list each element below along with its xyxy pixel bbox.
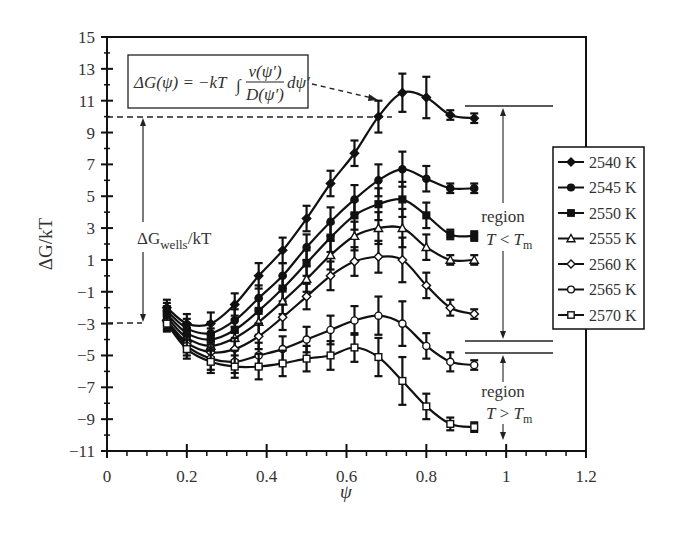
y-tick-label: −9	[77, 410, 95, 429]
y-tick-label: −11	[69, 442, 95, 461]
legend-label: 2560 K	[589, 256, 637, 273]
y-tick-label: 11	[79, 92, 95, 111]
svg-text:T < Tm: T < Tm	[486, 230, 533, 252]
y-tick-label: 13	[78, 60, 95, 79]
formula-arrow	[312, 84, 372, 98]
y-tick-label: 15	[78, 28, 95, 47]
series-2560k	[163, 238, 479, 364]
formula-box: ΔG(ψ) = −kT ∫ ν(ψ′) D(ψ′) dψ′	[128, 55, 310, 108]
x-tick-label: 0.2	[176, 467, 197, 486]
x-tick-label: 0	[103, 467, 112, 486]
x-tick-label: 1	[502, 467, 511, 486]
y-tick-label: −7	[77, 378, 96, 397]
region-low-annotation: region T < Tm region T > Tm	[465, 106, 553, 440]
y-tick-label: −3	[77, 315, 95, 334]
legend-label: 2570 K	[589, 307, 637, 324]
y-tick-label: −1	[77, 283, 95, 302]
formula-numerator: ν(ψ′)	[248, 62, 281, 81]
x-tick-label: 0.4	[256, 467, 278, 486]
svg-text:T > Tm: T > Tm	[486, 404, 533, 426]
y-tick-label: 9	[87, 124, 96, 143]
x-tick-label: 1.2	[575, 467, 596, 486]
series-layer	[163, 74, 479, 432]
y-tick-label: 1	[87, 251, 96, 270]
legend-label: 2550 K	[589, 205, 637, 222]
legend-label: 2555 K	[589, 230, 637, 247]
y-tick-label: 5	[87, 187, 96, 206]
legend-label: 2545 K	[589, 179, 637, 196]
series-2540k	[163, 74, 479, 335]
y-axis-title: ΔG/kT	[35, 217, 56, 270]
svg-text:region: region	[481, 207, 525, 226]
y-tick-label: −5	[77, 346, 95, 365]
x-tick-label: 0.8	[416, 467, 437, 486]
svg-text:region: region	[481, 382, 525, 401]
x-axis-title: ψ	[340, 481, 353, 502]
formula-denominator: D(ψ′)	[245, 85, 284, 104]
formula-tail: dψ′	[287, 73, 310, 92]
legend-label: 2540 K	[589, 154, 637, 171]
chart: 15131197531−1−3−5−7−9−11 00.20.40.60.811…	[0, 0, 678, 538]
formula-lhs: ΔG(ψ) = −kT	[133, 73, 228, 92]
y-tick-label: 7	[87, 155, 96, 174]
legend: 2540 K2545 K2550 K2555 K2560 K2565 K2570…	[553, 147, 644, 329]
y-tick-label: 3	[87, 219, 96, 238]
wells-arrow: ΔGwells/kT	[132, 118, 242, 322]
legend-label: 2565 K	[589, 281, 637, 298]
